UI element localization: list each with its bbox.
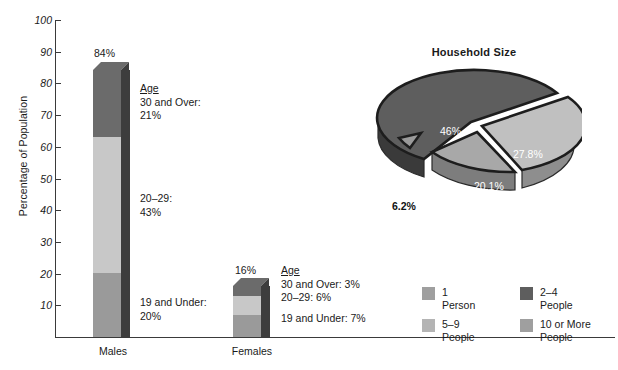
y-tick-40: 40 [18,205,52,215]
bar-females-side-face [261,286,270,337]
legend-swatch-2-4-people [520,287,533,300]
callout-males-19-under-label: 19 and Under: [140,296,207,308]
bar-females-front [233,286,261,337]
bar-males-total-label: 84% [94,47,115,59]
y-tick-50: 50 [18,174,52,184]
pie-label-2-4-people: 46% [440,125,461,137]
pie-label-10-or-more-people: 20.1% [474,180,504,192]
legend-swatch-1-person [422,287,435,300]
bar-females-total-label: 16% [235,264,256,276]
bar-males-seg-30-and-over [93,70,121,137]
y-tick-10: 10 [18,300,52,310]
callout-males-30-over-label: 30 and Over: [140,96,201,108]
tickmark-100 [55,20,61,21]
legend-swatch-10-or-more-people [520,319,533,332]
callout-males-30-and-over: Age 30 and Over: 21% [140,82,201,123]
y-tick-90: 90 [18,47,52,57]
tickmark-60 [55,147,61,148]
legend-item-2-4-people[interactable]: 2–4People [520,286,618,311]
y-axis-tick-labels: 100 90 80 70 60 50 40 30 20 10 [14,0,52,370]
legend-item-1-person[interactable]: 1Person [422,286,520,311]
bar-females[interactable] [233,278,269,337]
tickmark-10 [55,305,61,306]
callout-females-heading: Age [281,264,300,276]
bar-females-seg-20-29 [233,296,261,315]
legend-label-10-or-more-people: 10 or MorePeople [540,318,591,343]
callout-females-20-29: 20–29: 6% [281,291,331,303]
y-tick-30: 30 [18,237,52,247]
pie-legend: 1Person 2–4People 5–9People [422,286,618,350]
callout-males-heading: Age [140,82,159,94]
legend-item-10-or-more-people[interactable]: 10 or MorePeople [520,318,618,343]
tickmark-20 [55,274,61,275]
y-tick-70: 70 [18,110,52,120]
y-tick-100: 100 [18,15,52,25]
legend-item-5-9-people[interactable]: 5–9People [422,318,520,343]
tickmark-70 [55,115,61,116]
tickmark-90 [55,52,61,53]
x-label-females: Females [221,345,283,357]
callout-males-19-and-under: 19 and Under: 20% [140,296,207,323]
pie-label-1-person: 6.2% [392,200,416,212]
bar-females-seg-30-and-over [233,286,261,296]
callout-males-20-29: 20–29: 43% [140,192,172,219]
figure-canvas: Percentage of Population 100 90 80 70 60… [0,0,618,370]
legend-label-1-person: 1Person [442,286,475,311]
legend-label-5-9-people: 5–9People [442,318,475,343]
pie-chart-title: Household Size [330,46,618,58]
bar-females-seg-19-and-under [233,315,261,338]
x-label-males: Males [83,345,143,357]
bar-males[interactable] [93,62,129,337]
y-tick-60: 60 [18,142,52,152]
callout-males-20-29-label: 20–29: [140,192,172,204]
bar-males-front [93,70,121,337]
legend-row-1: 1Person 2–4People [422,286,618,318]
callout-males-20-29-value: 43% [140,206,161,218]
tickmark-80 [55,83,61,84]
tickmark-50 [55,179,61,180]
legend-row-2: 5–9People 10 or MorePeople [422,318,618,350]
tickmark-30 [55,242,61,243]
bar-males-seg-20-29 [93,137,121,273]
y-tick-20: 20 [18,269,52,279]
callout-males-30-over-value: 21% [140,109,161,121]
bar-males-seg-19-and-under [93,273,121,337]
callout-males-19-under-value: 20% [140,310,161,322]
household-size-pie-chart: Household Size 46% 27.8% [330,0,618,370]
tickmark-40 [55,210,61,211]
pie-label-5-9-people: 27.8% [513,148,543,160]
stacked-bar-chart: Percentage of Population 100 90 80 70 60… [0,0,330,370]
bar-males-side-face [121,70,130,337]
legend-label-2-4-people: 2–4People [540,286,573,311]
legend-swatch-5-9-people [422,319,435,332]
y-tick-80: 80 [18,78,52,88]
